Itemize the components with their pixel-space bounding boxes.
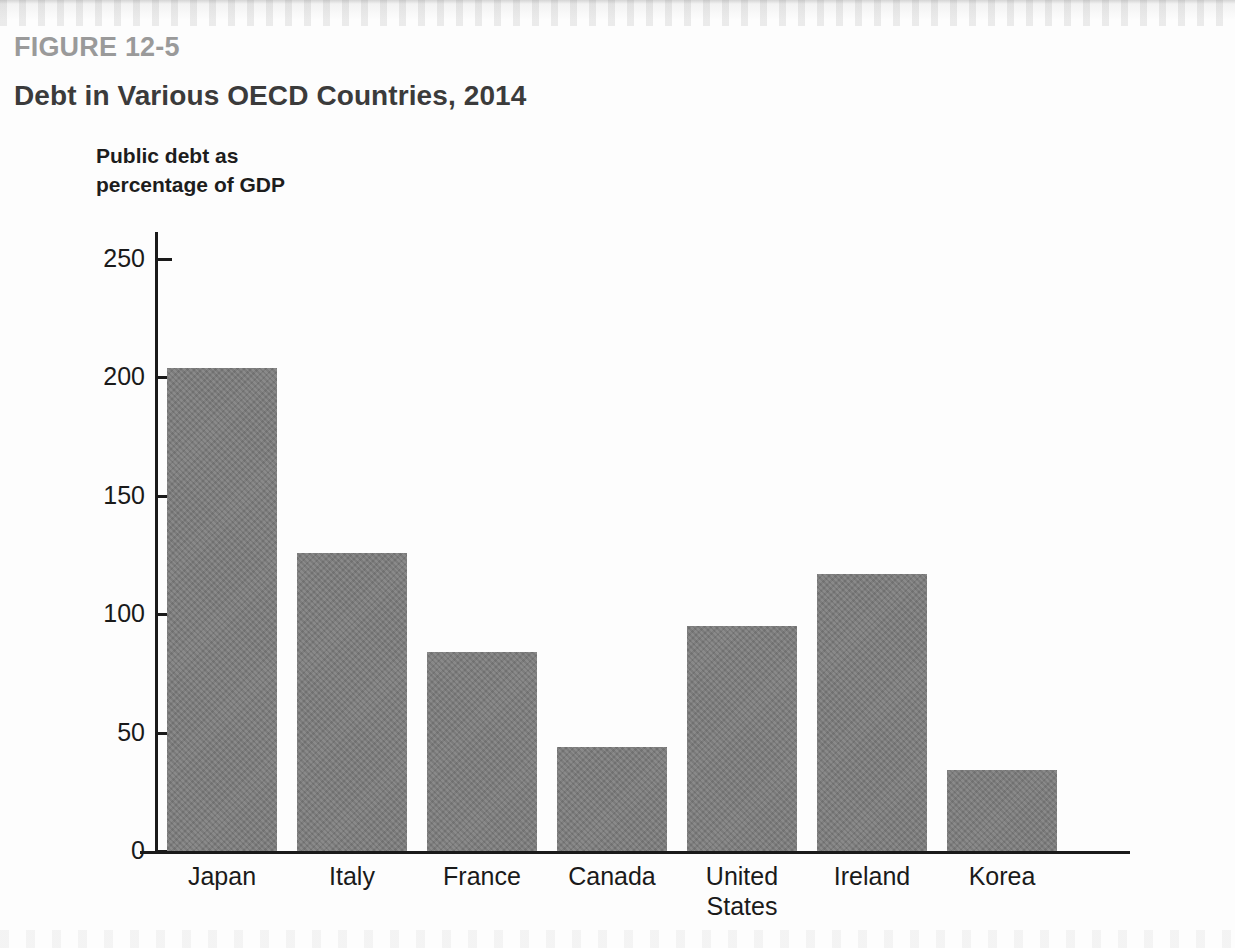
- bar-chart-plot-area: 050100150200250 JapanItalyFranceCanadaUn…: [0, 0, 1235, 948]
- y-axis-tick: [158, 258, 172, 261]
- y-axis-tick-label: 0: [85, 838, 145, 863]
- bar-united-states: [687, 626, 797, 851]
- x-axis-label-japan: Japan: [153, 862, 291, 892]
- bar-italy: [297, 553, 407, 851]
- bar-korea: [947, 770, 1057, 851]
- bar-japan: [167, 368, 277, 851]
- y-axis-tick-label: 50: [85, 720, 145, 745]
- x-axis-label-italy: Italy: [283, 862, 421, 892]
- bar-ireland: [817, 574, 927, 851]
- y-axis-tick-label: 150: [85, 483, 145, 508]
- y-axis-tick-label: 100: [85, 601, 145, 626]
- y-axis-line: [155, 232, 158, 853]
- x-axis-label-ireland: Ireland: [803, 862, 941, 892]
- y-axis-tick-label: 200: [85, 364, 145, 389]
- x-axis-label-united-states: United States: [673, 862, 811, 921]
- x-axis-label-france: France: [413, 862, 551, 892]
- bar-france: [427, 652, 537, 851]
- y-axis-tick-label: 250: [85, 246, 145, 271]
- figure-page: FIGURE 12-5 Debt in Various OECD Countri…: [0, 0, 1235, 948]
- bar-canada: [557, 747, 667, 851]
- x-axis-label-korea: Korea: [933, 862, 1071, 892]
- x-axis-line: [140, 851, 1130, 854]
- x-axis-label-canada: Canada: [543, 862, 681, 892]
